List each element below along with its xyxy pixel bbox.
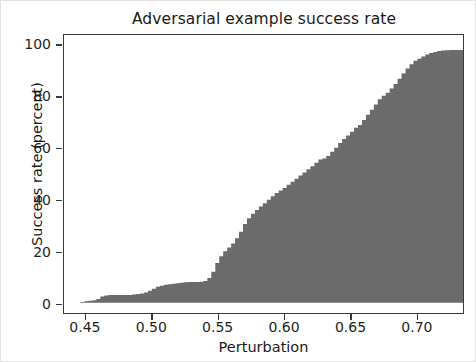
- y-tick-mark: [56, 148, 62, 149]
- x-tick-label: 0.45: [69, 319, 100, 335]
- y-tick-mark: [56, 96, 62, 97]
- plot-area: [63, 34, 464, 314]
- y-tick-mark: [56, 252, 62, 253]
- y-axis-label: Success rate (percent): [29, 44, 45, 284]
- x-tick-mark: [85, 314, 86, 320]
- chart-figure: Adversarial example success rate 0204060…: [0, 0, 476, 362]
- y-tick-mark: [56, 304, 62, 305]
- x-tick-label: 0.70: [401, 319, 432, 335]
- area-fill-path: [64, 50, 463, 303]
- x-tick-label: 0.60: [268, 319, 299, 335]
- y-tick-label: 0: [42, 296, 51, 312]
- x-axis-label: Perturbation: [63, 339, 464, 355]
- y-tick-mark: [56, 44, 62, 45]
- y-tick-mark: [56, 200, 62, 201]
- success-rate-area-series: [64, 35, 463, 313]
- x-tick-mark: [218, 314, 219, 320]
- x-tick-label: 0.65: [335, 319, 366, 335]
- x-tick-mark: [284, 314, 285, 320]
- x-tick-mark: [151, 314, 152, 320]
- chart-title: Adversarial example success rate: [63, 10, 465, 28]
- x-tick-label: 0.50: [136, 319, 167, 335]
- x-tick-mark: [417, 314, 418, 320]
- x-tick-label: 0.55: [202, 319, 233, 335]
- x-tick-mark: [350, 314, 351, 320]
